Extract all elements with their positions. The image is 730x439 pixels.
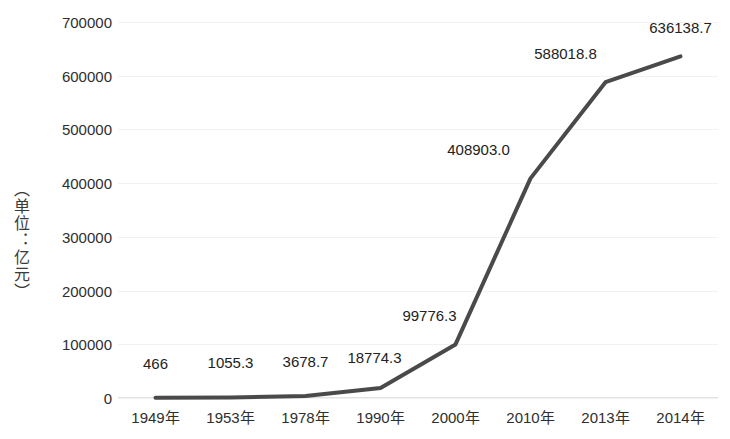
x-axis-tick-label: 1949年 xyxy=(131,406,179,427)
x-axis-tick-label: 2010年 xyxy=(506,406,554,427)
x-axis-tick-label: 1990年 xyxy=(356,406,404,427)
y-axis-tick-label: 0 xyxy=(32,390,112,407)
y-axis-tick-label: 100000 xyxy=(32,336,112,353)
x-axis-tick-label: 2000年 xyxy=(431,406,479,427)
point-value-label: 408903.0 xyxy=(447,141,510,158)
x-axis-tick-label: 2014年 xyxy=(656,406,704,427)
y-axis-tick-label: 400000 xyxy=(32,175,112,192)
x-axis-tick-label: 1953年 xyxy=(206,406,254,427)
x-axis-tick-label: 2013年 xyxy=(581,406,629,427)
point-value-label: 636138.7 xyxy=(649,19,712,36)
series-polyline xyxy=(156,56,681,397)
point-value-label: 588018.8 xyxy=(534,45,597,62)
x-axis-tick-labels: 1949年1953年1978年1990年2000年2010年2013年2014年 xyxy=(118,406,718,436)
y-axis-tick-label: 700000 xyxy=(32,14,112,31)
x-axis-tick-label: 1978年 xyxy=(281,406,329,427)
point-value-label: 18774.3 xyxy=(347,349,401,366)
y-axis-tick-labels: 0100000200000300000400000500000600000700… xyxy=(28,0,112,439)
y-axis-tick-label: 500000 xyxy=(32,121,112,138)
y-axis-tick-label: 300000 xyxy=(32,228,112,245)
y-axis-tick-label: 200000 xyxy=(32,282,112,299)
plot-area: 4661055.33678.718774.399776.3408903.0588… xyxy=(118,22,718,398)
series-line xyxy=(118,22,718,398)
point-value-label: 466 xyxy=(143,355,168,372)
point-value-label: 99776.3 xyxy=(402,307,456,324)
point-value-label: 1055.3 xyxy=(208,354,254,371)
line-chart: （单位：亿元） 01000002000003000004000005000006… xyxy=(0,0,730,439)
y-axis-tick-label: 600000 xyxy=(32,67,112,84)
point-value-label: 3678.7 xyxy=(283,353,329,370)
